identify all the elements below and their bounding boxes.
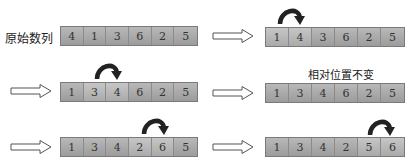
array-cell: 4 — [312, 138, 335, 156]
array-step-0: 4 1 3 6 2 5 — [60, 26, 198, 46]
array-cell: 5 — [174, 27, 197, 45]
hollow-right-arrow-icon — [10, 84, 52, 98]
curved-swap-arrow-icon — [277, 4, 305, 26]
array-cell: 3 — [289, 84, 312, 102]
array-cell: 2 — [152, 83, 175, 101]
array-step-4: 1 3 4 2 6 5 — [60, 137, 198, 157]
array-cell: 1 — [61, 83, 84, 101]
array-cell: 1 — [266, 28, 289, 46]
array-cell: 6 — [335, 28, 358, 46]
array-cell: 1 — [84, 27, 107, 45]
array-cell: 5 — [381, 84, 404, 102]
hollow-right-arrow-icon — [212, 140, 254, 154]
array-cell: 2 — [358, 28, 381, 46]
array-cell: 5 — [174, 138, 197, 156]
array-cell: 1 — [61, 138, 84, 156]
array-cell: 6 — [152, 138, 175, 156]
array-cell: 6 — [129, 27, 152, 45]
array-cell: 3 — [289, 138, 312, 156]
array-cell: 4 — [106, 138, 129, 156]
array-cell: 4 — [312, 84, 335, 102]
array-step-5: 1 3 4 2 5 6 — [265, 137, 405, 157]
array-cell: 2 — [129, 138, 152, 156]
array-cell: 6 — [335, 84, 358, 102]
array-step-2: 1 3 4 6 2 5 — [60, 82, 198, 102]
array-cell: 3 — [106, 27, 129, 45]
array-cell: 3 — [312, 28, 335, 46]
hollow-right-arrow-icon — [212, 86, 254, 100]
array-cell: 2 — [335, 138, 358, 156]
array-cell: 3 — [84, 83, 107, 101]
array-cell: 5 — [174, 83, 197, 101]
array-cell: 6 — [381, 138, 404, 156]
curved-swap-arrow-icon — [141, 114, 169, 136]
array-cell: 1 — [266, 84, 289, 102]
hollow-right-arrow-icon — [212, 29, 254, 43]
array-cell: 4 — [106, 83, 129, 101]
array-cell: 5 — [358, 138, 381, 156]
array-cell: 2 — [152, 27, 175, 45]
array-step-3: 1 3 4 6 2 5 — [265, 83, 405, 103]
hollow-right-arrow-icon — [10, 140, 52, 154]
curved-swap-arrow-icon — [94, 59, 122, 81]
array-cell: 4 — [61, 27, 84, 45]
original-sequence-label: 原始数列 — [5, 29, 53, 46]
array-cell: 5 — [381, 28, 404, 46]
array-step-1: 1 4 3 6 2 5 — [265, 27, 405, 47]
array-cell: 4 — [289, 28, 312, 46]
relative-position-unchanged-label: 相对位置不变 — [308, 66, 374, 82]
array-cell: 6 — [129, 83, 152, 101]
curved-swap-arrow-icon — [367, 115, 395, 137]
array-cell: 3 — [84, 138, 107, 156]
array-cell: 2 — [358, 84, 381, 102]
array-cell: 1 — [266, 138, 289, 156]
